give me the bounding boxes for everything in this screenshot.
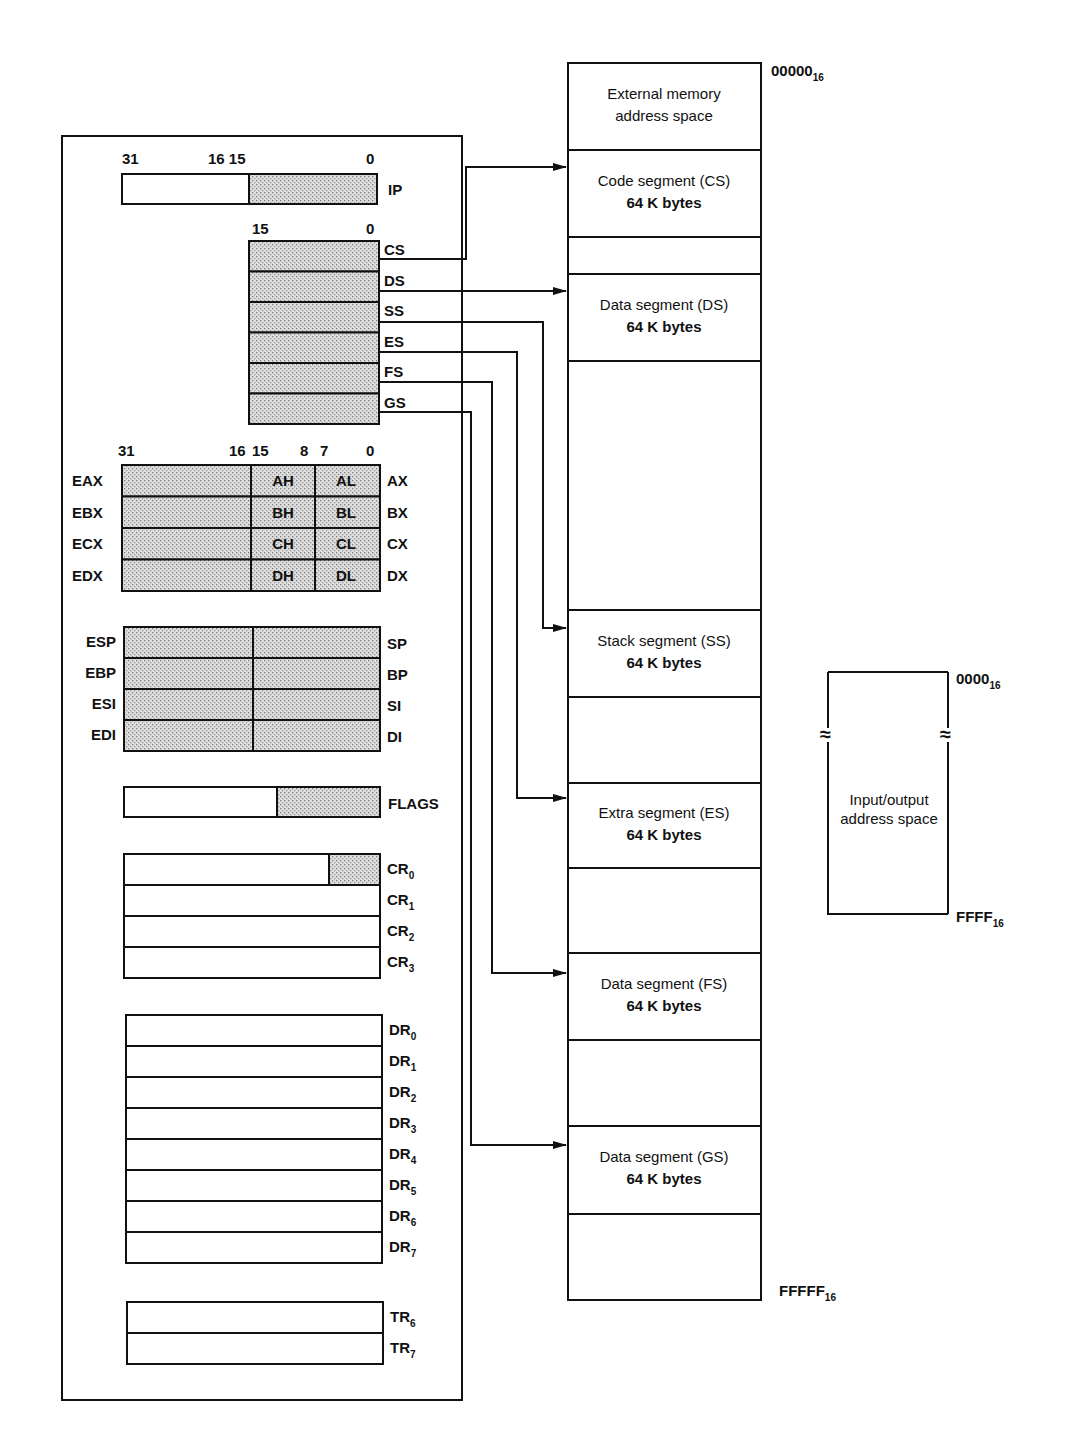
register-memory-diagram: 31 16 15 0 IP 15 0 CSDSSSESFSGS 31 16 15…	[0, 0, 1080, 1449]
ip-bit-0: 0	[366, 150, 374, 167]
general-registers: 31 16 15 8 7 0 EAXAHALAXEBXBHBLBXECXCHCL…	[72, 442, 408, 591]
arrow-cs-to-segment	[379, 167, 566, 259]
memory-block-size: 64 K bytes	[626, 654, 701, 671]
gen-bit-7: 7	[320, 442, 328, 459]
gen-bit-16: 16	[229, 442, 246, 459]
gen-bit-31: 31	[118, 442, 135, 459]
pointer-register-edi: EDIDI	[91, 720, 402, 751]
register-label: CR2	[387, 922, 415, 943]
test-registers: TR6TR7	[127, 1302, 416, 1364]
cr2-register: CR2	[124, 916, 415, 947]
memory-block-size: 64 K bytes	[626, 318, 701, 335]
ext-register-label: EDX	[72, 567, 103, 584]
segment-pointer-arrows	[379, 167, 566, 1145]
low-byte-label: AL	[336, 472, 356, 489]
memory-block-ss: Stack segment (SS)64 K bytes	[568, 610, 761, 697]
io-label-line1: Input/output	[849, 791, 929, 808]
memory-block-title: Data segment (DS)	[600, 296, 728, 313]
word-register-label: BX	[387, 504, 408, 521]
dr1-register: DR1	[126, 1046, 417, 1077]
memory-block-size: 64 K bytes	[626, 997, 701, 1014]
register-label: CR0	[387, 860, 415, 881]
memory-block-cs: Code segment (CS)64 K bytes	[568, 150, 761, 237]
memory-block-title: Extra segment (ES)	[599, 804, 730, 821]
ext-register-label: EDI	[91, 726, 116, 743]
low-byte-label: CL	[336, 535, 356, 552]
register-label: DR5	[389, 1176, 417, 1197]
general-register-eax: EAXAHALAX	[72, 465, 408, 497]
dr5-register: DR5	[126, 1170, 417, 1201]
high-byte-label: CH	[272, 535, 294, 552]
segment-register-label: GS	[384, 394, 406, 411]
memory-block-size: 64 K bytes	[626, 194, 701, 211]
low-byte-label: DL	[336, 567, 356, 584]
register-label: DR0	[389, 1021, 417, 1042]
memory-block-external: External memoryaddress space	[568, 63, 761, 150]
register-label: CR1	[387, 891, 415, 912]
io-break-right-icon: ≈	[940, 723, 951, 745]
register-label: TR6	[390, 1308, 416, 1329]
memory-block-es: Extra segment (ES)64 K bytes	[568, 783, 761, 868]
segment-register-ds	[249, 272, 379, 303]
register-label: CR3	[387, 953, 415, 974]
segment-register-cs	[249, 241, 379, 272]
ip-bit-16-15: 16 15	[208, 150, 246, 167]
tr7-register: TR7	[127, 1333, 416, 1364]
register-label: DR4	[389, 1145, 417, 1166]
io-address-space: ≈ ≈ Input/output address space 000016 FF…	[820, 670, 1004, 929]
general-register-edx: EDXDHDLDX	[72, 560, 408, 592]
memory-block-title: Data segment (FS)	[601, 975, 728, 992]
control-registers: CR0CR1CR2CR3	[124, 854, 415, 978]
cr3-register: CR3	[124, 947, 415, 978]
memory-block-size: 64 K bytes	[626, 826, 701, 843]
gen-bit-8: 8	[300, 442, 308, 459]
register-label: TR7	[390, 1339, 416, 1360]
word-register-label: SI	[387, 697, 401, 714]
cr0-register: CR0	[124, 854, 415, 885]
pointer-register-esp: ESPSP	[86, 627, 407, 658]
memory-block-gap5	[568, 1040, 761, 1126]
tr6-register: TR6	[127, 1302, 416, 1333]
dr0-register: DR0	[126, 1015, 417, 1046]
io-label-line2: address space	[840, 810, 938, 827]
ext-register-label: ECX	[72, 535, 103, 552]
ext-register-label: ESI	[92, 695, 116, 712]
segment-register-label: DS	[384, 272, 405, 289]
pointer-register-ebp: EBPBP	[85, 658, 408, 689]
segment-register-label: ES	[384, 333, 404, 350]
word-register-label: BP	[387, 666, 408, 683]
memory-block-ds: Data segment (DS)64 K bytes	[568, 274, 761, 361]
word-register-label: CX	[387, 535, 408, 552]
dr6-register: DR6	[126, 1201, 417, 1232]
memory-block-title: Data segment (GS)	[599, 1148, 728, 1165]
debug-registers: DR0DR1DR2DR3DR4DR5DR6DR7	[126, 1015, 417, 1263]
memory-block-gap6	[568, 1214, 761, 1300]
gen-bit-15: 15	[252, 442, 269, 459]
ip-label: IP	[388, 181, 402, 198]
word-register-label: AX	[387, 472, 408, 489]
ext-register-label: ESP	[86, 633, 116, 650]
word-register-label: SP	[387, 635, 407, 652]
dr2-register: DR2	[126, 1077, 417, 1108]
io-start-address: 000016	[956, 670, 1001, 691]
word-register-label: DX	[387, 567, 408, 584]
ext-register-label: EAX	[72, 472, 103, 489]
low-byte-label: BL	[336, 504, 356, 521]
cr1-register: CR1	[124, 885, 415, 916]
ext-register-label: EBP	[85, 664, 116, 681]
high-byte-label: DH	[272, 567, 294, 584]
memory-block-title: Stack segment (SS)	[597, 632, 730, 649]
register-label: DR1	[389, 1052, 417, 1073]
high-byte-label: AH	[272, 472, 294, 489]
ext-register-label: EBX	[72, 504, 103, 521]
register-label: DR2	[389, 1083, 417, 1104]
register-label: DR3	[389, 1114, 417, 1135]
seg-bit-15: 15	[252, 220, 269, 237]
memory-block-gap3	[568, 697, 761, 783]
memory-block-fs: Data segment (FS)64 K bytes	[568, 953, 761, 1040]
segment-register-label: SS	[384, 302, 404, 319]
segment-register-label: CS	[384, 241, 405, 258]
dr4-register: DR4	[126, 1139, 417, 1170]
ip-bit-31: 31	[122, 150, 139, 167]
diagram-canvas: 31 16 15 0 IP 15 0 CSDSSSESFSGS 31 16 15…	[0, 0, 1080, 1449]
